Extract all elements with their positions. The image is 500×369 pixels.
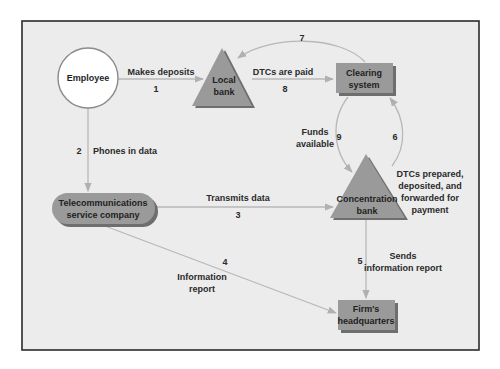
flow-1-step: 1 bbox=[153, 84, 158, 94]
local-bank-label-line1: Local bbox=[212, 75, 236, 85]
flow-3-label: Transmits data bbox=[206, 193, 271, 203]
node-firm-headquarters: Firm's headquarters bbox=[337, 300, 398, 333]
employee-label: Employee bbox=[67, 73, 110, 83]
firm-hq-label-line2: headquarters bbox=[337, 316, 394, 326]
node-employee: Employee bbox=[58, 48, 118, 108]
concentration-bank-label-line2: bank bbox=[356, 206, 378, 216]
clearing-system-label-line2: system bbox=[348, 80, 379, 90]
clearing-system-label-line1: Clearing bbox=[346, 68, 382, 78]
flow-8-label: DTCs are paid bbox=[253, 67, 314, 77]
flow-6-label-line3: forwarded for bbox=[401, 193, 460, 203]
flow-1-label: Makes deposits bbox=[127, 67, 194, 77]
flow-6-step: 6 bbox=[392, 132, 397, 142]
telecom-label-line2: service company bbox=[66, 210, 139, 220]
node-telecom-service-company: Telecommunications service company bbox=[52, 193, 158, 227]
flow-6-label-line1: DTCs prepared, bbox=[396, 169, 463, 179]
local-bank-label-line2: bank bbox=[213, 87, 235, 97]
flow-3-step: 3 bbox=[235, 210, 240, 220]
flow-4-label-line1: Information bbox=[177, 272, 227, 282]
flow-7-step: 7 bbox=[299, 33, 304, 43]
flow-9-step: 9 bbox=[336, 132, 341, 142]
flow-5-label-line2: information report bbox=[364, 263, 442, 273]
flow-5-label-line1: Sends bbox=[389, 251, 416, 261]
flow-5-step: 5 bbox=[357, 256, 362, 266]
telecom-label-line1: Telecommunications bbox=[59, 198, 148, 208]
flow-6-label-line2: deposited, and bbox=[398, 181, 462, 191]
concentration-bank-label-line1: Concentration bbox=[336, 194, 397, 204]
flow-9-label-line1: Funds bbox=[302, 127, 329, 137]
flow-9-label-line2: available bbox=[296, 139, 334, 149]
node-clearing-system: Clearing system bbox=[336, 63, 396, 96]
dtc-flow-diagram: Employee Local bank Clearing system Tele… bbox=[0, 0, 500, 369]
flow-2-step: 2 bbox=[76, 146, 81, 156]
flow-2-label: Phones in data bbox=[93, 146, 158, 156]
flow-4-step: 4 bbox=[222, 257, 227, 267]
flow-6-label-line4: payment bbox=[411, 205, 448, 215]
firm-hq-label-line1: Firm's bbox=[353, 304, 380, 314]
flow-4-label-line2: report bbox=[189, 284, 215, 294]
flow-8-step: 8 bbox=[282, 84, 287, 94]
